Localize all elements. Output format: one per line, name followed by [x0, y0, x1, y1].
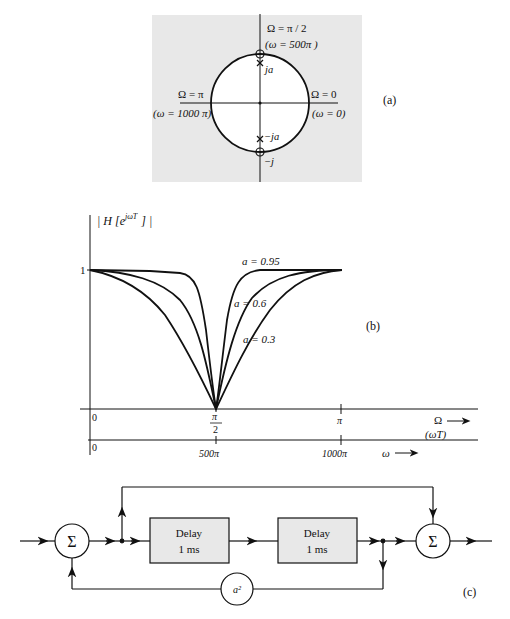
delay-1-line1: Delay [176, 527, 203, 539]
panel-a-pole-zero-plot: Ω = π / 2 (ω = 500π ) ja Ω = π (ω = 1000… [152, 14, 396, 182]
top-label: Ω = π / 2 [267, 22, 307, 34]
axis2-1000pi-label: 1000π [322, 448, 348, 459]
curve-a-03 [90, 270, 342, 409]
origin-dot [258, 101, 261, 104]
y-tick-label-1: 1 [80, 264, 86, 276]
delay-2-line1: Delay [304, 527, 331, 539]
axis2-name: ω [382, 447, 390, 459]
delay-2-line2: 1 ms [306, 543, 327, 555]
zero-bottom-label: −j [264, 156, 274, 167]
panel-c-label: (c) [463, 585, 476, 599]
pole-bottom-label: −ja [264, 131, 279, 142]
summer-1-symbol: Σ [67, 533, 76, 550]
right-sub-label: (ω = 0) [312, 107, 346, 120]
curve-label-095: a = 0.95 [242, 255, 280, 267]
left-label: Ω = π [178, 88, 204, 100]
y-axis-title: | H [ejωT] | [97, 212, 152, 228]
curve-label-03: a = 0.3 [243, 333, 276, 345]
curve-a-06 [90, 270, 342, 409]
gain-label: a² [233, 584, 242, 595]
panel-b-label: (b) [366, 319, 380, 333]
delay-1-line2: 1 ms [178, 543, 199, 555]
panel-c-block-diagram [20, 487, 492, 605]
pole-top-label: ja [263, 64, 273, 75]
axis1-pi-half-num: π [212, 411, 218, 422]
axis1-zero-label: 0 [92, 412, 97, 423]
figure-canvas: Ω = π / 2 (ω = 500π ) ja Ω = π (ω = 1000… [0, 0, 510, 619]
axis1-pi-label: π [337, 415, 343, 426]
curve-label-06: a = 0.6 [234, 297, 267, 309]
svg-text:| H [ejωT] |: | H [ejωT] | [97, 212, 152, 228]
panel-b-magnitude-plot: | H [ejωT] | 1 a = 0.95 a = 0.6 a = 0.3 … [80, 212, 478, 459]
axis1-name: Ω [434, 414, 442, 426]
axis2-zero-label: 0 [92, 442, 97, 453]
delay-block-1 [150, 518, 229, 563]
top-sub-label: (ω = 500π ) [265, 38, 318, 51]
summer-2-symbol: Σ [428, 533, 437, 550]
right-label: Ω = 0 [311, 88, 337, 100]
axis2-500pi-label: 500π [199, 448, 220, 459]
panel-a-label: (a) [383, 93, 396, 107]
left-sub-label: (ω = 1000 π) [153, 107, 212, 120]
axis1-name-sub: (ωT) [425, 428, 447, 441]
curve-a-095 [90, 270, 342, 409]
delay-block-2 [278, 518, 357, 563]
axis1-pi-half-den: 2 [213, 424, 218, 435]
